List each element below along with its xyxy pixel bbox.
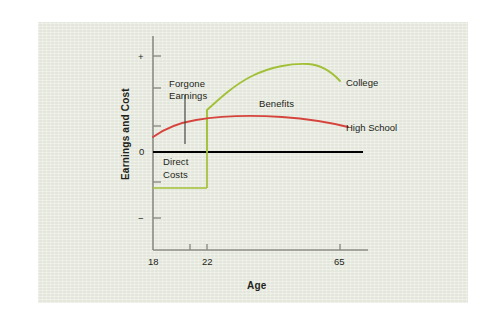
series-high-school: [153, 116, 348, 137]
figure-container: + 0 − 18 22 65 Forgone Earnings Direct C…: [0, 0, 491, 328]
chart-panel: + 0 − 18 22 65 Forgone Earnings Direct C…: [38, 22, 468, 303]
x-tick-label-22: 22: [202, 256, 213, 267]
annotation-direct-costs-line2: Costs: [163, 169, 188, 181]
y-axis-title: Earnings and Cost: [120, 88, 131, 180]
annotation-benefits: Benefits: [259, 98, 294, 110]
annotation-forgone-earnings-line1: Forgone: [169, 78, 205, 90]
high-school-curve: [153, 116, 348, 137]
y-tick-label-plus: +: [138, 51, 144, 62]
x-axis-title: Age: [247, 280, 267, 291]
annotation-forgone-earnings-line2: Earnings: [169, 90, 207, 102]
x-tick-label-18: 18: [148, 256, 159, 267]
y-tick-label-zero: 0: [139, 146, 144, 157]
x-tick-label-65: 65: [334, 256, 345, 267]
chart-plot-area: [38, 22, 468, 303]
y-tick-label-minus: −: [138, 213, 144, 224]
series-label-high-school: High School: [346, 122, 397, 133]
annotation-direct-costs-line1: Direct: [163, 156, 188, 168]
series-label-college: College: [346, 77, 378, 88]
